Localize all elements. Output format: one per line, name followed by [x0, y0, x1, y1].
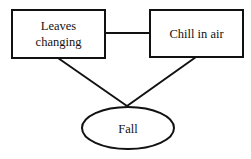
edge-chill-fall	[127, 57, 196, 106]
node-fall-label: Fall	[118, 122, 138, 136]
node-fall: Fall	[82, 107, 174, 149]
node-chill-in-air: Chill in air	[150, 10, 243, 57]
node-leaves-changing: Leaves changing	[12, 10, 105, 58]
node-leaves-label-line2: changing	[36, 35, 83, 49]
edge-leaves-fall	[58, 58, 127, 106]
node-leaves-label-line1: Leaves	[41, 19, 77, 33]
concept-diagram: Leaves changing Chill in air Fall	[0, 0, 251, 159]
node-chill-label: Chill in air	[169, 27, 224, 41]
